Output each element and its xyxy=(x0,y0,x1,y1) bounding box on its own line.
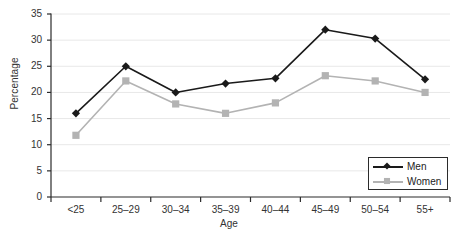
square-marker-icon xyxy=(272,99,279,106)
data-point[interactable] xyxy=(172,88,180,96)
square-marker-icon xyxy=(421,89,428,96)
data-point[interactable] xyxy=(221,79,229,87)
data-point[interactable] xyxy=(72,132,79,139)
diamond-marker-icon xyxy=(172,88,180,96)
square-marker-icon xyxy=(72,132,79,139)
data-point[interactable] xyxy=(421,89,428,96)
square-marker-icon xyxy=(372,77,379,84)
line-chart: Percentage Age 05101520253035 <2525–2930… xyxy=(0,0,458,241)
legend-item-women[interactable]: Women xyxy=(369,174,449,189)
series-line-men xyxy=(76,30,425,114)
series-line-women xyxy=(76,76,425,136)
legend: Men Women xyxy=(368,157,448,190)
data-point[interactable] xyxy=(222,110,229,117)
square-marker-icon xyxy=(322,72,329,79)
square-marker-icon xyxy=(122,77,129,84)
square-marker-icon xyxy=(383,177,391,185)
square-marker-icon xyxy=(222,110,229,117)
legend-label-men: Men xyxy=(407,161,426,172)
diamond-marker-icon xyxy=(221,79,229,87)
plot-area xyxy=(0,0,458,241)
data-point[interactable] xyxy=(272,99,279,106)
data-point[interactable] xyxy=(322,72,329,79)
legend-label-women: Women xyxy=(407,176,441,187)
diamond-marker-icon xyxy=(383,162,391,170)
square-marker-icon xyxy=(172,100,179,107)
legend-item-men[interactable]: Men xyxy=(369,159,449,174)
data-point[interactable] xyxy=(172,100,179,107)
data-point[interactable] xyxy=(122,77,129,84)
data-point[interactable] xyxy=(372,77,379,84)
